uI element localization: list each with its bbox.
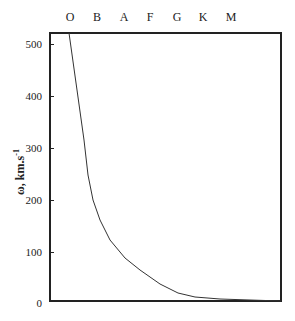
rotation-curve: [0, 0, 295, 321]
